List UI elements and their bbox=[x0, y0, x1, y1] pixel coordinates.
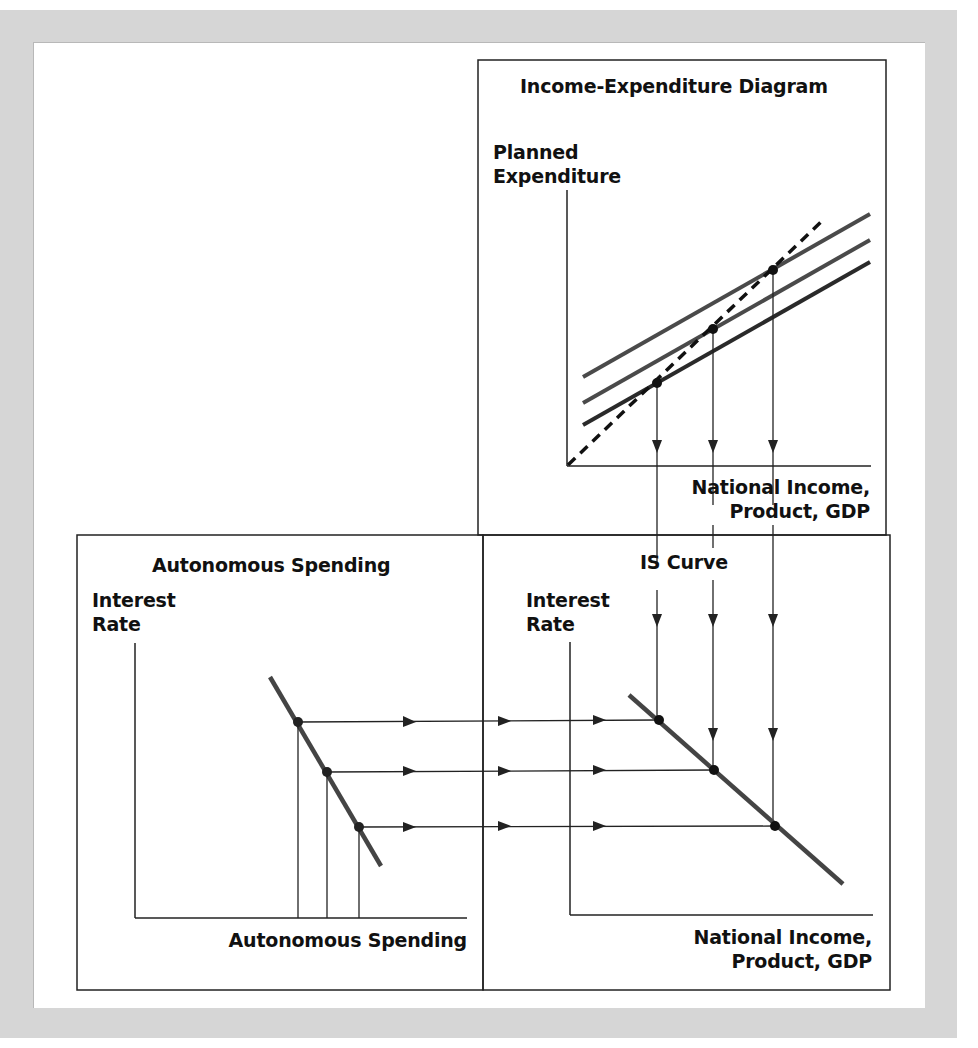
pe-line-medium bbox=[583, 240, 870, 403]
autonomous-spending-title: Autonomous Spending bbox=[152, 553, 390, 577]
national-income-label-top-line1: National Income, bbox=[692, 475, 870, 499]
pe-line-high bbox=[583, 214, 870, 377]
interest-rate-label-right-line1: Interest bbox=[526, 588, 610, 612]
national-income-label-bottom-line1: National Income, bbox=[694, 925, 872, 949]
pe-line-low bbox=[583, 262, 870, 425]
horizontal-projection-lines bbox=[298, 720, 773, 827]
income-expenditure-box bbox=[478, 60, 886, 535]
right-arrowheads bbox=[403, 715, 606, 832]
is-curve-title: IS Curve bbox=[640, 550, 728, 574]
national-income-label-bottom-line2: Product, GDP bbox=[731, 949, 872, 973]
interest-rate-label-right-line2: Rate bbox=[526, 612, 575, 636]
autonomous-spending-axis-label: Autonomous Spending bbox=[229, 928, 467, 952]
forty-five-degree-line bbox=[568, 220, 823, 465]
autonomous-spending-axes bbox=[135, 643, 467, 918]
is-curve-derivation-diagram bbox=[0, 0, 978, 1048]
national-income-label-top-line2: Product, GDP bbox=[729, 499, 870, 523]
planned-expenditure-label-line2: Expenditure bbox=[493, 164, 621, 188]
interest-rate-label-left-line2: Rate bbox=[92, 612, 141, 636]
interest-rate-label-left-line1: Interest bbox=[92, 588, 176, 612]
income-expenditure-title: Income-Expenditure Diagram bbox=[520, 74, 828, 98]
planned-expenditure-lines bbox=[568, 214, 870, 465]
panel-borders bbox=[77, 60, 890, 990]
autonomous-drop-lines bbox=[298, 722, 359, 918]
vertical-projection-lines bbox=[657, 270, 773, 826]
planned-expenditure-label-line1: Planned bbox=[493, 140, 578, 164]
